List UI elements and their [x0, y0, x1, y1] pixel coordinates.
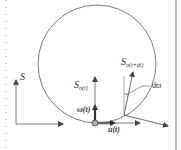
linear-velocity-label: u(t)	[108, 126, 120, 134]
body-frame-axes	[95, 77, 140, 123]
angular-velocity-label: ω(t)	[77, 106, 90, 114]
world-frame-axes	[16, 80, 63, 124]
contact-point	[92, 120, 98, 126]
body-frame-label-sub: o(t)	[79, 85, 88, 91]
next-frame-axes	[124, 72, 168, 126]
next-frame-label-sub: o(t+dt)	[126, 62, 143, 68]
world-frame-label: S	[20, 72, 25, 82]
rotation-increment-label: dϖ	[152, 82, 161, 90]
diagram-canvas	[0, 0, 181, 150]
body-frame-label: So(t)	[74, 80, 88, 91]
rolling-disk-diagram: S So(t) So(t+dt) ω(t) u(t) dϖ	[0, 0, 181, 150]
next-frame-label: So(t+dt)	[121, 57, 143, 68]
